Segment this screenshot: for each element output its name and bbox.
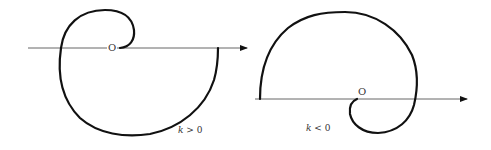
right-figure (255, 12, 467, 133)
right-caption-var: k (306, 123, 311, 133)
right-origin-label: O (358, 87, 366, 97)
right-spiral-curve (260, 12, 417, 133)
left-origin-label: O (107, 43, 117, 53)
left-caption-var: k (178, 125, 183, 135)
diagram-canvas (0, 0, 491, 150)
left-spiral-curve (60, 10, 218, 135)
right-caption: k < 0 (306, 124, 330, 133)
left-caption-rel: > 0 (186, 125, 202, 135)
left-figure (28, 10, 247, 135)
right-caption-rel: < 0 (314, 123, 330, 133)
left-caption: k > 0 (178, 126, 202, 135)
